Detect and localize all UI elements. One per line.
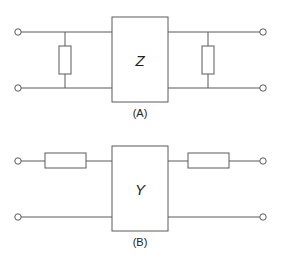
circuit-a-input-bottom-terminal: [15, 85, 21, 91]
circuit-a-block-label: Z: [134, 52, 145, 69]
circuit-b-output-top-terminal: [260, 158, 266, 164]
circuit-b-input-bottom-terminal: [15, 214, 21, 220]
circuit-b-input-top-terminal: [15, 158, 21, 164]
circuit-a-input-shunt-resistor: [59, 32, 71, 88]
circuit-b-block-label: Y: [135, 181, 146, 198]
circuit-a-output-bottom-terminal: [260, 85, 266, 91]
circuit-a: Z (A): [15, 17, 266, 119]
circuit-a-input-top-terminal: [15, 29, 21, 35]
circuit-a-caption: (A): [133, 107, 148, 119]
circuit-b-input-series-resistor: [45, 153, 86, 168]
circuit-a-output-shunt-resistor: [202, 32, 214, 88]
two-port-diagram: Z (A) Y (B): [0, 0, 281, 261]
circuit-b-output-bottom-terminal: [260, 214, 266, 220]
circuit-b-caption: (B): [133, 236, 148, 248]
circuit-a-output-top-terminal: [260, 29, 266, 35]
circuit-b-output-series-resistor: [188, 153, 229, 168]
circuit-b: Y (B): [15, 146, 266, 248]
